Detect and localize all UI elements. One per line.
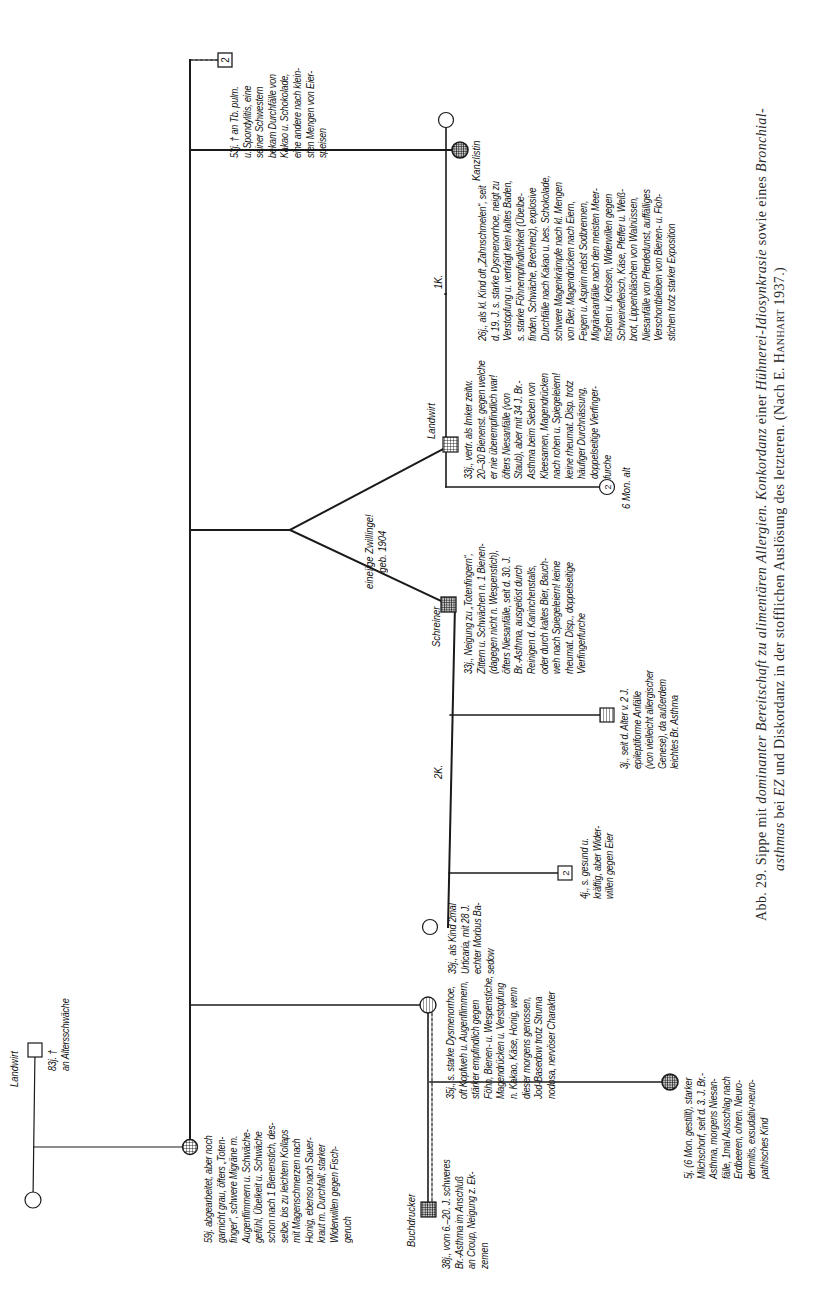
svg-text:2: 2 [603, 484, 613, 489]
mother-note: 59j. abgearbeitet, aber noch garnicht gr… [202, 1080, 353, 1243]
landwirt-children-label: 1K. [432, 275, 444, 289]
grandfather-occupation: Landwirt [8, 1051, 20, 1087]
daughter35-note: 35j., s. starke Dysmenorrhoe, oft Kopfwe… [444, 927, 557, 1099]
buchdrucker-note: 38j., vom 6.–20. J. schweres Br.-Asthma … [440, 1127, 490, 1269]
figure-caption-line1: Abb. 29. Sippe mit dominanter Bereitscha… [753, 108, 770, 921]
grandfather-symbol [28, 1043, 42, 1057]
landwirt-note: 33j., vertr. als Imker zeitw. 20–30 Bien… [462, 324, 613, 479]
siblings-note: 53j. † an Tb. pulm. u. Spondylitis, eine… [228, 29, 329, 158]
svg-text:2: 2 [560, 870, 571, 875]
grandfather-note: 83j. † an Altersschwäche [46, 998, 71, 1071]
pedigree-figure: 2 2 2 Landwirt 83j. † an Altersschwäche … [0, 0, 835, 1299]
buchdrucker-occupation: Buchdrucker [405, 1194, 417, 1247]
figure-caption-line2: asthmas bei EZ und Diskordanz in der sto… [771, 267, 788, 871]
schreiner-occupation: Schreiner [430, 607, 442, 647]
schreiner-note: 33j., Neigung zu „Totenfingern“, Zittern… [462, 506, 588, 674]
schreiner-child3-note: 3j., seit d. Alter v. 2 J. epileptiforme… [618, 627, 681, 769]
schreiner-children-label: 2K. [432, 765, 444, 779]
grandchild-note: 5j. (6 Mon. gestillt), starker Milchscho… [682, 1024, 770, 1179]
twins-label: eineiige Zwillinge! geb. 1904 [363, 514, 389, 589]
landwirt-child-age: 6 Mon. alt [620, 467, 632, 509]
schreiner-child2-note: 4j., s. gesund u. kräftig, aber Wider- w… [578, 787, 616, 899]
kanzlistin-note: 26j., als kl. Kind oft „Zahnschmelen“, s… [476, 130, 678, 341]
landwirt-occupation: Landwirt [425, 403, 437, 439]
